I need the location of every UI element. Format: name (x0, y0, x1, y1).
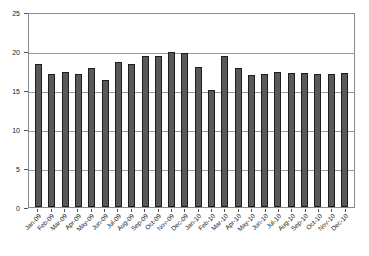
bar[interactable] (208, 90, 215, 207)
bar-slot (125, 14, 138, 207)
bar[interactable] (248, 75, 255, 207)
bar[interactable] (235, 68, 242, 207)
bar[interactable] (102, 80, 109, 207)
plot-area (28, 13, 355, 208)
bar-slot (271, 14, 284, 207)
bar-slot (178, 14, 191, 207)
bar-chart: 2520151050 Jan-09Feb-09Mar-09Apr-09May-0… (0, 0, 369, 256)
x-label-slot: Apr-10 (232, 212, 245, 256)
bar[interactable] (341, 73, 348, 207)
x-tick-labels: Jan-09Feb-09Mar-09Apr-09May-09Jun-09Jul-… (28, 212, 355, 256)
y-tick-label: 5 (16, 166, 20, 173)
y-tick-label: 25 (12, 10, 20, 17)
bar[interactable] (128, 64, 135, 207)
bar[interactable] (328, 74, 335, 207)
bar-slot (258, 14, 271, 207)
bar[interactable] (288, 73, 295, 207)
y-tick-label: 15 (12, 88, 20, 95)
bar[interactable] (301, 73, 308, 207)
bar[interactable] (62, 72, 69, 207)
bar[interactable] (155, 56, 162, 207)
bar[interactable] (221, 56, 228, 207)
bar-slot (98, 14, 111, 207)
x-label-slot: Sep-10 (299, 212, 312, 256)
bar[interactable] (274, 72, 281, 207)
bar-slot (112, 14, 125, 207)
bar[interactable] (115, 62, 122, 207)
x-label-slot: Dec-10 (339, 212, 352, 256)
y-tick-label: 20 (12, 49, 20, 56)
bar[interactable] (181, 53, 188, 207)
bar-slot (32, 14, 45, 207)
bar[interactable] (314, 74, 321, 207)
x-axis: Jan-09Feb-09Mar-09Apr-09May-09Jun-09Jul-… (28, 209, 355, 256)
x-label-slot: May-09 (85, 212, 98, 256)
bar-slot (311, 14, 324, 207)
bar-series (29, 14, 354, 207)
bar-slot (72, 14, 85, 207)
bar-slot (165, 14, 178, 207)
bar-slot (325, 14, 338, 207)
bar[interactable] (48, 74, 55, 207)
bar-slot (59, 14, 72, 207)
bar[interactable] (88, 68, 95, 207)
bar[interactable] (35, 64, 42, 207)
bar-slot (285, 14, 298, 207)
bar-slot (298, 14, 311, 207)
bar-slot (205, 14, 218, 207)
bar[interactable] (195, 67, 202, 207)
bar-slot (45, 14, 58, 207)
y-tick-label: 0 (16, 205, 20, 212)
bar-slot (152, 14, 165, 207)
y-axis: 2520151050 (0, 0, 28, 221)
bar-slot (192, 14, 205, 207)
y-tick-label: 10 (12, 127, 20, 134)
bar-slot (231, 14, 244, 207)
bar-slot (218, 14, 231, 207)
bar-slot (138, 14, 151, 207)
bar[interactable] (168, 52, 175, 207)
bar-slot (85, 14, 98, 207)
bar-slot (245, 14, 258, 207)
bar[interactable] (75, 74, 82, 207)
x-label-slot: Aug-09 (125, 212, 138, 256)
x-label-slot: Jan-10 (192, 212, 205, 256)
bar[interactable] (261, 74, 268, 207)
bar[interactable] (142, 56, 149, 207)
bar-slot (338, 14, 351, 207)
